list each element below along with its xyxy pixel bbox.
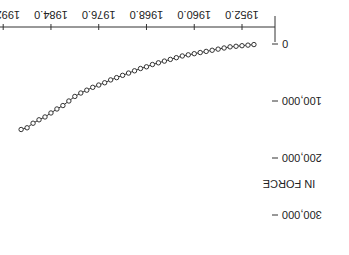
data-point bbox=[174, 55, 178, 59]
data-point bbox=[43, 115, 47, 119]
data-point bbox=[156, 61, 160, 65]
data-point bbox=[138, 66, 142, 70]
data-line bbox=[21, 45, 254, 130]
data-point bbox=[198, 50, 202, 54]
x-tick-label: 1976.0 bbox=[82, 9, 116, 21]
data-point bbox=[234, 44, 238, 48]
data-point bbox=[216, 47, 220, 51]
data-point bbox=[228, 45, 232, 49]
data-point bbox=[97, 83, 101, 87]
chart-container: 0100,000200,000300,000IN FORCE1952.01960… bbox=[0, 0, 349, 255]
x-tick-label: 1984.0 bbox=[34, 9, 68, 21]
data-point bbox=[252, 42, 256, 46]
data-point bbox=[85, 88, 89, 92]
data-point bbox=[168, 57, 172, 61]
data-point bbox=[73, 94, 77, 98]
data-point bbox=[192, 51, 196, 55]
data-point bbox=[150, 62, 154, 66]
x-tick-label: 1992.0 bbox=[0, 9, 20, 21]
data-point bbox=[25, 126, 29, 130]
data-point bbox=[240, 44, 244, 48]
data-point bbox=[79, 91, 83, 95]
data-point bbox=[210, 48, 214, 52]
y-tick-label: 300,000 bbox=[282, 209, 322, 221]
data-point bbox=[67, 99, 71, 103]
data-point bbox=[186, 53, 190, 57]
data-point bbox=[49, 111, 53, 115]
data-point bbox=[37, 118, 41, 122]
data-point bbox=[180, 54, 184, 58]
line-chart: 0100,000200,000300,000IN FORCE1952.01960… bbox=[0, 0, 349, 255]
y-tick-label: 100,000 bbox=[282, 95, 322, 107]
data-point bbox=[126, 71, 130, 75]
data-point bbox=[144, 65, 148, 69]
data-point bbox=[102, 81, 106, 85]
data-point bbox=[108, 78, 112, 82]
data-point bbox=[114, 75, 118, 79]
data-point bbox=[61, 103, 65, 107]
x-tick-label: 1952.0 bbox=[225, 9, 259, 21]
data-point bbox=[132, 69, 136, 73]
y-tick-label: 200,000 bbox=[282, 152, 322, 164]
data-point bbox=[31, 121, 35, 125]
data-point bbox=[19, 127, 23, 131]
y-axis-label: IN FORCE bbox=[263, 178, 316, 190]
data-point bbox=[204, 49, 208, 53]
data-point bbox=[55, 107, 59, 111]
data-point bbox=[91, 85, 95, 89]
x-tick-label: 1968.0 bbox=[130, 9, 164, 21]
x-tick-label: 1960.0 bbox=[177, 9, 211, 21]
data-point bbox=[162, 59, 166, 63]
y-tick-label: 0 bbox=[282, 38, 288, 50]
data-point bbox=[222, 46, 226, 50]
data-point bbox=[246, 43, 250, 47]
data-point bbox=[120, 73, 124, 77]
